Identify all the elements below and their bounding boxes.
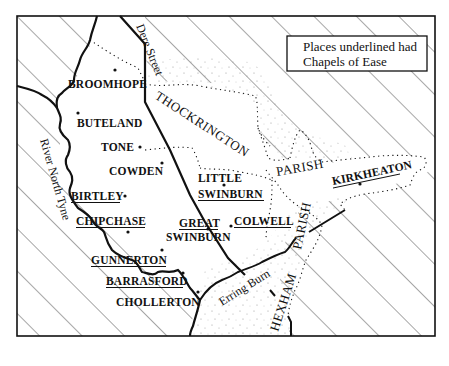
label-birtley: BIRTLEY (71, 190, 124, 202)
label-buteland: BUTELAND (77, 117, 143, 129)
dot-birtley (123, 194, 126, 197)
label-gunnerton: GUNNERTON (91, 254, 167, 266)
legend: Places underlined had Chapels of Ease (287, 36, 427, 71)
label-tone: TONE (101, 141, 134, 153)
label-chollerton: CHOLLERTON (116, 296, 200, 308)
legend-line-1: Places underlined had (303, 39, 418, 54)
label-chipchase: CHIPCHASE (76, 215, 146, 227)
legend-line-2: Chapels of Ease (303, 54, 387, 69)
dot-tone (138, 145, 141, 148)
dot-chipchase (126, 230, 129, 233)
label-great-swinburn: SWINBURN (166, 231, 231, 243)
label-broomhope: BROOMHOPE (68, 78, 147, 90)
parish-map: Places underlined had Chapels of Ease De… (0, 0, 449, 366)
dot-broomhope (113, 68, 116, 71)
label-barrasford: BARRASFORD (106, 275, 188, 287)
label-cowden: COWDEN (109, 165, 164, 177)
dot-buteland (76, 111, 79, 114)
dot-gunnerton (160, 248, 163, 251)
dot-chollerton (196, 290, 199, 293)
label-colwell: COLWELL (234, 215, 294, 227)
label-great: GREAT (179, 217, 220, 229)
label-little-swinburn: SWINBURN (198, 188, 263, 200)
label-little: LITTLE (198, 172, 242, 184)
dot-colwell (229, 224, 232, 227)
